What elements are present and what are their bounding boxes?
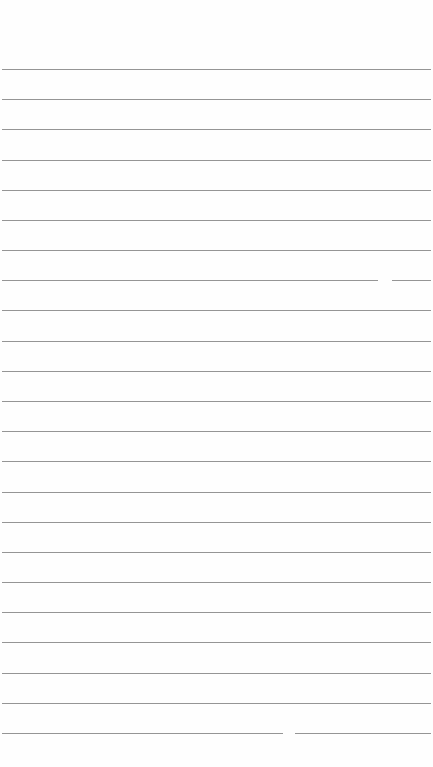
ruled-line (2, 190, 431, 191)
line-gap (378, 279, 392, 282)
ruled-line (2, 703, 431, 704)
ruled-line (2, 310, 431, 311)
ruled-line (2, 401, 431, 402)
ruled-line (2, 250, 431, 251)
ruled-line (2, 522, 431, 523)
line-gap (283, 732, 295, 735)
ruled-line (2, 220, 431, 221)
lined-paper-sheet (0, 0, 433, 767)
ruled-line (2, 341, 431, 342)
ruled-line (2, 552, 431, 553)
ruled-line (2, 673, 431, 674)
ruled-line (2, 160, 431, 161)
ruled-line (2, 99, 431, 100)
ruled-line (2, 492, 431, 493)
ruled-line (2, 612, 431, 613)
ruled-line (2, 69, 431, 70)
ruled-line (2, 733, 431, 734)
ruled-line (2, 129, 431, 130)
ruled-line (2, 371, 431, 372)
ruled-line (2, 431, 431, 432)
ruled-line (2, 642, 431, 643)
ruled-line (2, 582, 431, 583)
ruled-line (2, 280, 431, 281)
ruled-line (2, 461, 431, 462)
